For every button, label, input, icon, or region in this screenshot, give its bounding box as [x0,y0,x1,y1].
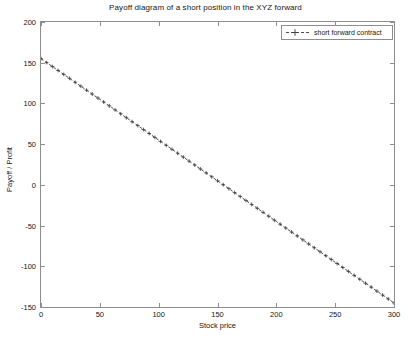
x-tick-50 [100,303,101,307]
y-tick-200 [390,22,394,23]
plot-area [40,21,395,308]
y-tick-0 [390,185,394,186]
x-tick-label-200: 200 [270,310,283,319]
legend-entry-label: short forward contract [314,29,382,36]
y-tick-150 [390,63,394,64]
y-tick-label--150: -150 [0,303,36,312]
y-tick--50 [41,226,45,227]
y-tick-label-150: 150 [0,58,36,67]
y-tick-50 [390,144,394,145]
data-series-short-forward-contract [41,22,394,307]
chart-legend[interactable]: short forward contract [281,25,393,40]
x-tick-300 [394,22,395,26]
x-tick-100 [159,303,160,307]
plot-inner [41,22,394,307]
x-tick-150 [218,22,219,26]
x-tick-150 [218,303,219,307]
x-tick-label-250: 250 [329,310,342,319]
y-axis-title: Payoff / Profit [5,130,14,210]
x-tick-100 [159,22,160,26]
x-tick-label-150: 150 [211,310,224,319]
y-tick-label--50: -50 [0,221,36,230]
y-tick-100 [41,103,45,104]
y-tick-label-100: 100 [0,99,36,108]
y-tick-150 [41,63,45,64]
y-tick--100 [390,266,394,267]
x-tick-250 [335,303,336,307]
y-tick-label-200: 200 [0,18,36,27]
x-tick-200 [276,303,277,307]
y-tick-100 [390,103,394,104]
x-axis-title: Stock price [40,321,395,330]
y-tick--100 [41,266,45,267]
x-tick-label-0: 0 [39,310,43,319]
y-tick--150 [390,307,394,308]
x-tick-300 [394,303,395,307]
x-tick-50 [100,22,101,26]
x-tick-label-50: 50 [96,310,104,319]
x-tick-label-300: 300 [388,310,401,319]
chart-figure: Payoff diagram of a short position in th… [0,0,411,338]
legend-line-marker-icon [286,28,310,37]
y-tick--50 [390,226,394,227]
y-tick--150 [41,307,45,308]
y-tick-0 [41,185,45,186]
chart-title: Payoff diagram of a short position in th… [0,3,411,13]
y-tick-label--100: -100 [0,262,36,271]
y-tick-200 [41,22,45,23]
x-tick-label-100: 100 [152,310,165,319]
x-tick-200 [276,22,277,26]
series-markers [41,57,394,305]
y-tick-50 [41,144,45,145]
